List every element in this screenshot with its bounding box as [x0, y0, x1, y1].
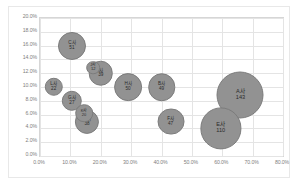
y-axis-tick-label: 0.0% — [9, 152, 37, 157]
bubble-data-point: K사20 — [75, 104, 93, 122]
gridline-horizontal — [40, 156, 283, 157]
bubble-value: 27 — [69, 101, 74, 106]
y-axis-tick-label: 6.0% — [9, 111, 37, 116]
y-axis-tick-label: 2.0% — [9, 139, 37, 144]
x-axis-tick-label: 30.0% — [113, 160, 147, 165]
y-axis-tick-label: 16.0% — [9, 42, 37, 47]
bubble-data-point: H사50 — [114, 73, 142, 101]
x-axis-tick-label: 60.0% — [204, 160, 238, 165]
bubble-value: 22 — [51, 87, 56, 92]
x-axis-tick-label: 80.0% — [265, 160, 298, 165]
y-axis-tick-label: 20.0% — [9, 14, 37, 19]
x-axis-tick-label: 50.0% — [174, 160, 208, 165]
x-axis-tick-label: 0.0% — [22, 160, 56, 165]
y-axis-tick-labels: 0.0%2.0%4.0%6.0%8.0%10.0%12.0%14.0%16.0%… — [9, 17, 37, 157]
bubble-value: 50 — [126, 87, 131, 92]
bubble-value: 47 — [168, 122, 173, 127]
bubble-data-point: J사12 — [86, 61, 100, 75]
gridline-vertical — [192, 18, 193, 156]
y-axis-tick-label: 12.0% — [9, 70, 37, 75]
bubble-value: 39 — [98, 73, 103, 78]
bubble-value: 110 — [216, 128, 225, 134]
gridline-vertical — [283, 18, 284, 156]
y-axis-tick-label: 8.0% — [9, 97, 37, 102]
gridline-vertical — [101, 18, 102, 156]
gridline-vertical — [40, 18, 41, 156]
bubble-value: 12 — [91, 68, 95, 72]
bubble-value: 51 — [69, 46, 74, 51]
bubble-data-point: C사51 — [58, 32, 86, 60]
bubble-value: 20 — [82, 113, 86, 117]
x-axis-tick-label: 70.0% — [235, 160, 269, 165]
plot-area: A사143E사110C사51H사50B사49F사47I사39D사38G사27L사… — [39, 17, 284, 157]
x-axis-tick-labels: 0.0%10.0%20.0%30.0%40.0%50.0%60.0%70.0%8… — [39, 160, 284, 170]
bubble-chart: 0.0%2.0%4.0%6.0%8.0%10.0%12.0%14.0%16.0%… — [8, 6, 290, 178]
x-axis-tick-label: 10.0% — [52, 160, 86, 165]
x-axis-tick-label: 40.0% — [144, 160, 178, 165]
bubble-value: 49 — [159, 87, 164, 92]
bubble-value: 143 — [236, 95, 245, 101]
x-axis-tick-label: 20.0% — [83, 160, 117, 165]
bubble-data-point: B사49 — [148, 73, 176, 101]
bubble-value: 38 — [85, 122, 90, 127]
y-axis-tick-label: 14.0% — [9, 56, 37, 61]
bubble-data-point: F사47 — [157, 108, 184, 135]
y-axis-tick-label: 4.0% — [9, 125, 37, 130]
bubble-data-point: L사22 — [44, 78, 62, 96]
y-axis-tick-label: 18.0% — [9, 28, 37, 33]
y-axis-tick-label: 10.0% — [9, 83, 37, 88]
